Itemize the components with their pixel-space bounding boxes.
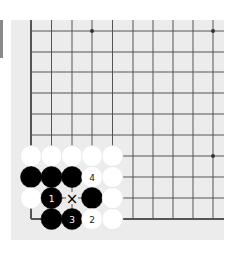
white-stone: 2: [82, 209, 103, 230]
move-number-label: 3: [69, 215, 75, 225]
white-stone: [41, 146, 62, 167]
move-number-label: 4: [89, 173, 95, 183]
white-stone: [102, 146, 123, 167]
star-point: [211, 154, 215, 158]
black-stone: [62, 167, 83, 188]
star-point: [211, 29, 215, 33]
white-stone: [82, 146, 103, 167]
white-stone: 4: [82, 167, 103, 188]
x-marker-icon: ×: [66, 190, 79, 208]
white-stone: [102, 167, 123, 188]
move-number-label: 2: [89, 215, 95, 225]
white-stone: [102, 209, 123, 230]
black-stone: [41, 209, 62, 230]
move-number-label: 1: [49, 194, 55, 204]
black-stone: 1: [41, 188, 62, 209]
black-stone: [82, 188, 103, 209]
white-stone: [21, 146, 42, 167]
black-stone: 3: [62, 209, 83, 230]
black-stone: [21, 167, 42, 188]
white-stone: [21, 188, 42, 209]
white-stone: [62, 146, 83, 167]
white-stone: [102, 188, 123, 209]
go-board-grid: 4132×: [0, 0, 239, 255]
black-stone: [41, 167, 62, 188]
star-point: [90, 29, 94, 33]
